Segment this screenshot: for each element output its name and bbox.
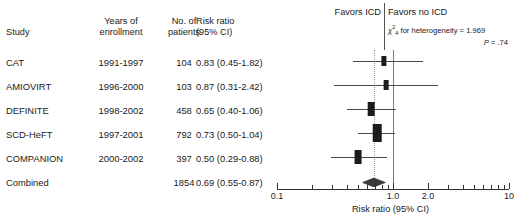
x-axis-minor-tick (358, 185, 359, 189)
table-cell-years: 1997-2001 (78, 129, 164, 140)
x-axis-tick-label: 0.1 (271, 191, 284, 201)
x-axis-major-tick (277, 183, 278, 189)
table-cell-years: 2000-2002 (78, 153, 164, 164)
x-axis-tick-label: 2.0 (422, 191, 435, 201)
x-axis-tick-label: 1.0 (387, 191, 400, 201)
table-row: Combined (6, 177, 102, 188)
x-axis-minor-tick (474, 185, 475, 189)
x-axis-minor-tick (388, 185, 389, 189)
table-cell-years: 1991-1997 (78, 57, 164, 68)
favors-no-icd-label: Favors no ICD (388, 7, 447, 18)
x-axis-title: Risk ratio (95% CI) (268, 204, 513, 215)
heterogeneity-chi-line: χ24 for heterogeneity = 1.969 (388, 22, 510, 38)
point-estimate-marker (384, 80, 389, 90)
x-axis-minor-tick (347, 185, 348, 189)
x-axis-minor-tick (332, 185, 333, 189)
x-axis-minor-tick (498, 185, 499, 189)
forest-plot: Favors ICD Favors no ICD χ24 for heterog… (268, 0, 513, 224)
favors-divider (384, 3, 385, 50)
confidence-interval-line (353, 61, 423, 62)
x-axis-minor-tick (483, 185, 484, 189)
x-axis-tick-label: 10 (504, 191, 514, 201)
x-axis-minor-tick (504, 185, 505, 189)
table-cell-years: 1996-2000 (78, 81, 164, 92)
favors-icd-label: Favors ICD (335, 7, 381, 18)
heterogeneity-text: for heterogeneity = 1.969 (398, 26, 485, 35)
p-value: = .74 (489, 38, 508, 47)
x-axis-minor-tick (463, 185, 464, 189)
x-axis-major-tick (509, 183, 510, 189)
point-estimate-marker (355, 150, 362, 164)
column-header-years-line1: Years of (78, 16, 164, 27)
point-estimate-marker (381, 56, 386, 67)
reference-line-pooled (374, 50, 375, 182)
x-axis-minor-tick (367, 185, 368, 189)
x-axis-minor-tick (448, 185, 449, 189)
heterogeneity-annotation: χ24 for heterogeneity = 1.969 P = .74 (388, 22, 510, 48)
heterogeneity-p-line: P = .74 (388, 38, 510, 48)
column-header-years-line2: enrollment (78, 27, 164, 38)
reference-line-null (393, 50, 394, 189)
x-axis-major-tick (428, 183, 429, 189)
x-axis-minor-tick (491, 185, 492, 189)
x-axis-line (277, 189, 509, 190)
point-estimate-marker (373, 124, 382, 142)
x-axis-minor-tick (382, 185, 383, 189)
x-axis-minor-tick (375, 185, 376, 189)
point-estimate-marker (368, 102, 375, 116)
chi-symbol: χ (388, 26, 392, 35)
summary-diamond (363, 173, 386, 182)
study-table: Study Years of enrollment No. of patient… (0, 0, 268, 224)
x-axis-major-tick (393, 183, 394, 189)
table-cell-years: 1998-2002 (78, 105, 164, 116)
x-axis-minor-tick (312, 185, 313, 189)
